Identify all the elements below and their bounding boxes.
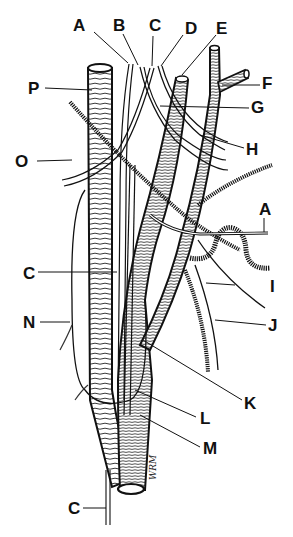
vessel-nerve-diagram — [0, 0, 293, 537]
label-m: M — [203, 440, 217, 457]
label-p: P — [28, 80, 39, 97]
label-h: H — [246, 141, 258, 158]
label-c-bottom: C — [68, 500, 80, 517]
label-l: L — [200, 410, 210, 427]
label-f: F — [262, 75, 272, 92]
label-c-mid: C — [23, 265, 35, 282]
label-k: K — [244, 395, 256, 412]
label-e: E — [216, 20, 227, 37]
label-a-top: A — [73, 17, 85, 34]
label-o: O — [15, 153, 28, 170]
nerve-i — [198, 240, 265, 308]
vessel-j — [185, 270, 208, 372]
label-b: B — [113, 17, 125, 34]
label-i: I — [270, 278, 275, 295]
label-a-right: A — [259, 201, 271, 218]
label-d: D — [185, 20, 197, 37]
label-n: N — [23, 314, 35, 331]
label-c-top: C — [149, 17, 161, 34]
label-j: J — [268, 317, 277, 334]
label-g: G — [251, 99, 264, 116]
artist-signature: WRM — [148, 455, 158, 480]
